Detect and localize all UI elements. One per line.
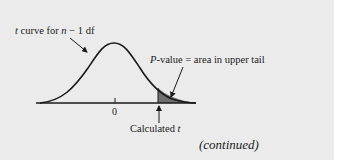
t-curve-label: t curve for n − 1 df [15, 26, 94, 37]
pvalue-label: P-value = area in upper tail [150, 55, 265, 66]
calculated-t-label: Calculated t [130, 124, 180, 135]
pvalue-label-arrow [171, 67, 183, 97]
continued-note: (continued) [199, 138, 259, 151]
curve-label-arrow [70, 38, 87, 52]
zero-tick-label: 0 [112, 107, 117, 117]
